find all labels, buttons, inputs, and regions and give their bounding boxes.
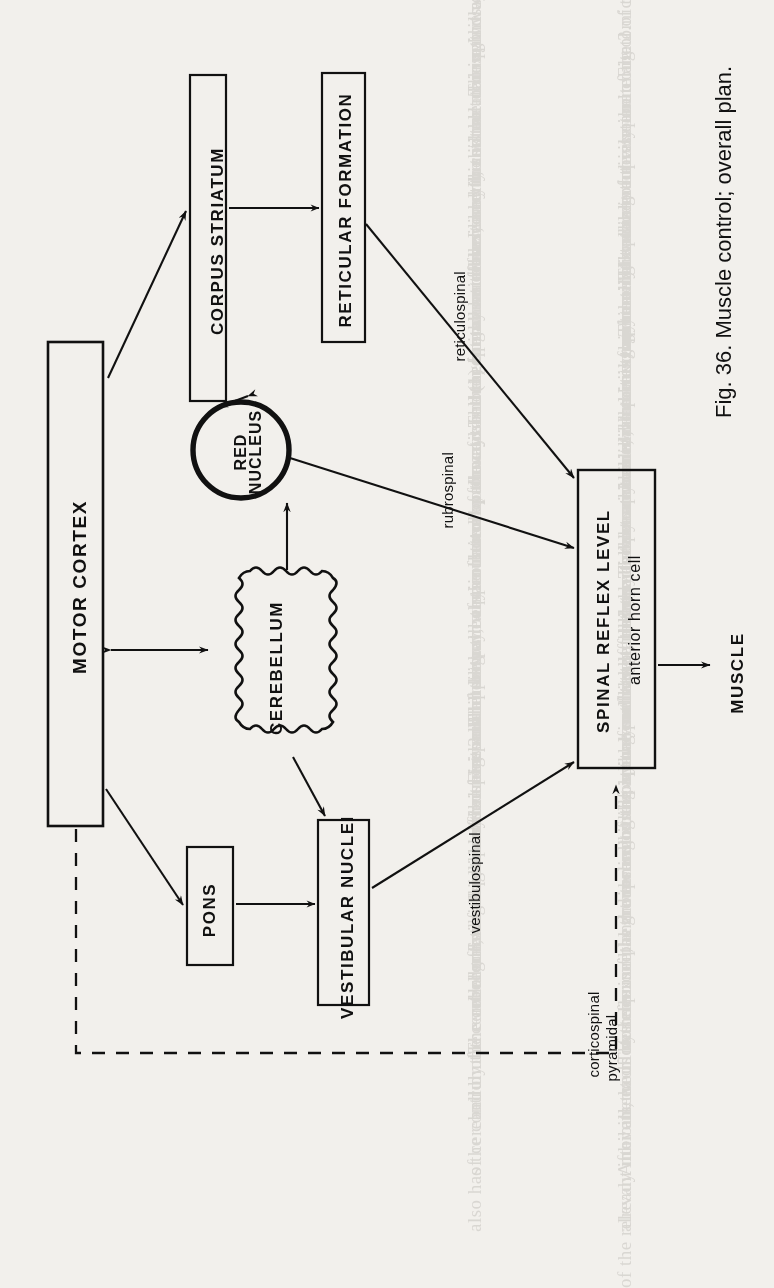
path-label-pyramidal: pyramidal xyxy=(603,962,620,1082)
node-sublabel-anterior-horn-cell: anterior horn cell xyxy=(626,495,644,745)
path-label-vestibulospinal: vestibulospinal xyxy=(466,794,483,934)
figure-caption: Fig. 36. Muscle control; overall plan. xyxy=(711,88,737,418)
node-label-corpus-striatum: CORPUS STRIATUM xyxy=(208,121,228,361)
edge-motor-cortex-to-corpus-striatum xyxy=(108,211,186,378)
path-label-rubrospinal: rubrospinal xyxy=(439,409,456,529)
edge-cerebellum-to-vestibular-nuclei xyxy=(293,757,325,816)
edge-reticular-formation-to-spinal-reflex-level xyxy=(366,224,574,478)
node-label-motor-cortex: MOTOR CORTEX xyxy=(69,457,91,717)
node-label-vestibular-nuclei: VESTIBULAR NUCLEI xyxy=(338,807,358,1027)
path-label-reticulospinal: reticulospinal xyxy=(451,232,468,362)
node-label-cerebellum: CEREBELLUM xyxy=(267,578,287,758)
path-label-corticospinal: corticospinal xyxy=(585,958,602,1078)
node-label-red-nucleus-line2: NUCLEUS xyxy=(247,402,265,502)
node-label-pons: PONS xyxy=(200,865,220,955)
edge-motor-cortex-to-pons xyxy=(106,789,183,905)
node-label-spinal-reflex-level: SPINAL REFLEX LEVEL xyxy=(594,496,614,746)
node-label-reticular-formation: RETICULAR FORMATION xyxy=(336,88,356,333)
node-label-muscle: MUSCLE xyxy=(728,608,748,738)
edge-red-nucleus-to-spinal-reflex-level xyxy=(290,458,574,548)
